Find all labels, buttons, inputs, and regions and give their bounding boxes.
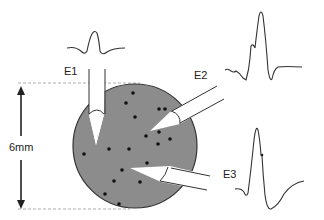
cell-dot — [82, 152, 86, 156]
waveform-e2 — [225, 12, 302, 80]
cell-dot — [145, 161, 149, 165]
cell-dot — [127, 147, 131, 151]
cell-dot — [131, 91, 135, 95]
cell-dot — [124, 101, 128, 105]
waveform-e3 — [235, 128, 304, 209]
e3-label: E3 — [223, 168, 236, 180]
cell-dot — [157, 130, 161, 134]
scale-arrow: 6mm — [9, 86, 33, 209]
cell-dot — [138, 180, 142, 184]
e1-label: E1 — [64, 65, 77, 77]
waveform-e1 — [67, 31, 125, 53]
cell-dot — [144, 134, 148, 138]
cell-dot — [163, 107, 167, 111]
waveform-e3-marker — [261, 154, 264, 157]
cell-dot — [133, 115, 137, 119]
recording-diagram: 6mm E1 E2 E3 — [0, 0, 324, 220]
scale-label: 6mm — [9, 141, 33, 153]
cell-dot — [168, 137, 172, 141]
cell-dot — [120, 168, 124, 172]
arrow-down-icon — [17, 200, 25, 209]
cell-dot — [156, 142, 160, 146]
cell-dot — [112, 179, 116, 183]
cell-dot — [103, 192, 107, 196]
e2-label: E2 — [194, 69, 207, 81]
cell-dot — [157, 107, 161, 111]
arrow-up-icon — [17, 86, 25, 95]
cell-dot — [107, 147, 111, 151]
cell-dot — [117, 202, 121, 206]
